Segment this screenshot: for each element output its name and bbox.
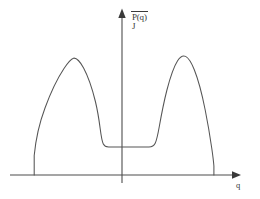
x-axis-arrow-icon (232, 171, 241, 179)
figure-canvas: P(q) J q (0, 0, 260, 199)
x-axis-label: q (236, 181, 240, 190)
plot-area (0, 0, 260, 199)
overlap-distribution-curve (34, 56, 214, 175)
y-axis-label-denominator: J (131, 22, 148, 31)
y-axis-arrow-icon (118, 9, 125, 19)
y-axis-label: P(q) J (131, 11, 148, 31)
